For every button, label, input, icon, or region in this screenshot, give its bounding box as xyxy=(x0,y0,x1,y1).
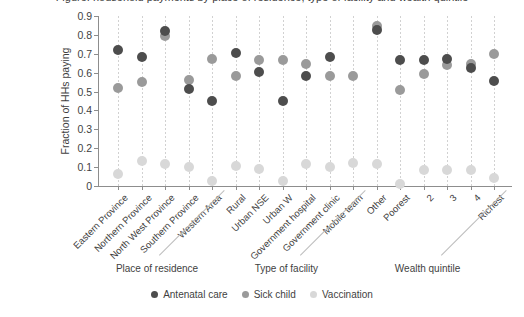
x-tick-mark xyxy=(212,186,213,190)
category-column xyxy=(259,16,260,186)
data-point[interactable] xyxy=(278,55,288,65)
legend-label: Antenatal care xyxy=(163,289,228,300)
x-axis-line xyxy=(98,186,512,187)
category-column xyxy=(330,16,331,186)
data-point[interactable] xyxy=(301,159,311,169)
category-column xyxy=(424,16,425,186)
data-point[interactable] xyxy=(419,55,429,65)
data-point[interactable] xyxy=(137,156,147,166)
data-point[interactable] xyxy=(395,85,405,95)
data-point[interactable] xyxy=(207,54,217,64)
category-column xyxy=(306,16,307,186)
category-column xyxy=(165,16,166,186)
y-tick-label: 0.3 xyxy=(66,123,92,135)
data-point[interactable] xyxy=(113,83,123,93)
chart-screenshot: Figure: household payments by place of r… xyxy=(0,0,524,317)
category-column xyxy=(447,16,448,186)
plot-area: 00.10.20.30.40.50.60.70.80.9 Eastern Pro… xyxy=(98,16,512,186)
data-point[interactable] xyxy=(254,67,264,77)
data-point[interactable] xyxy=(395,179,405,189)
data-point[interactable] xyxy=(489,76,499,86)
x-tick-mark xyxy=(236,186,237,190)
data-point[interactable] xyxy=(113,45,123,55)
data-point[interactable] xyxy=(207,176,217,186)
data-point[interactable] xyxy=(278,96,288,106)
data-point[interactable] xyxy=(489,173,499,183)
x-axis-label: 2 xyxy=(424,192,436,204)
category-column xyxy=(118,16,119,186)
y-tick-label: 0.2 xyxy=(66,142,92,154)
data-point[interactable] xyxy=(466,63,476,73)
x-tick-mark xyxy=(424,186,425,190)
data-point[interactable] xyxy=(466,165,476,175)
category-column xyxy=(400,16,401,186)
data-point[interactable] xyxy=(442,54,452,64)
legend-swatch-icon xyxy=(242,291,249,298)
data-point[interactable] xyxy=(325,52,335,62)
data-point[interactable] xyxy=(113,169,123,179)
x-tick-mark xyxy=(353,186,354,190)
data-point[interactable] xyxy=(254,164,264,174)
x-axis-label: 4 xyxy=(471,192,483,204)
data-point[interactable] xyxy=(231,161,241,171)
legend-item[interactable]: Vaccination xyxy=(310,289,373,300)
y-tick-mark xyxy=(94,73,98,74)
x-tick-mark xyxy=(189,186,190,190)
data-point[interactable] xyxy=(184,84,194,94)
data-point[interactable] xyxy=(372,159,382,169)
category-column xyxy=(494,16,495,186)
group-label: Place of residence xyxy=(116,263,198,274)
data-point[interactable] xyxy=(184,162,194,172)
data-point[interactable] xyxy=(419,69,429,79)
legend-label: Sick child xyxy=(254,289,296,300)
y-tick-mark xyxy=(94,167,98,168)
y-tick-mark xyxy=(94,54,98,55)
data-point[interactable] xyxy=(301,59,311,69)
data-point[interactable] xyxy=(231,71,241,81)
y-tick-label: 0.5 xyxy=(66,86,92,98)
category-column xyxy=(142,16,143,186)
data-point[interactable] xyxy=(231,48,241,58)
x-axis-label: 3 xyxy=(448,192,460,204)
category-column xyxy=(353,16,354,186)
data-point[interactable] xyxy=(325,162,335,172)
data-point[interactable] xyxy=(442,165,452,175)
group-label: Wealth quintile xyxy=(395,263,460,274)
data-point[interactable] xyxy=(278,176,288,186)
data-point[interactable] xyxy=(419,165,429,175)
y-tick-label: 0 xyxy=(66,180,92,192)
data-point[interactable] xyxy=(325,71,335,81)
y-tick-label: 0.1 xyxy=(66,161,92,173)
data-point[interactable] xyxy=(160,26,170,36)
data-point[interactable] xyxy=(207,96,217,106)
y-axis-title-text: Fraction of HHs paying xyxy=(59,48,71,155)
category-column xyxy=(236,16,237,186)
category-column xyxy=(212,16,213,186)
x-tick-mark xyxy=(494,186,495,190)
data-point[interactable] xyxy=(489,49,499,59)
legend-item[interactable]: Antenatal care xyxy=(151,289,228,300)
data-point[interactable] xyxy=(372,25,382,35)
data-point[interactable] xyxy=(348,158,358,168)
data-point[interactable] xyxy=(395,55,405,65)
y-axis-line xyxy=(98,16,99,187)
column-guide-line xyxy=(447,16,448,186)
data-point[interactable] xyxy=(137,52,147,62)
data-point[interactable] xyxy=(160,159,170,169)
x-tick-mark xyxy=(306,186,307,190)
column-guide-line xyxy=(400,16,401,186)
legend-swatch-icon xyxy=(151,291,158,298)
legend-item[interactable]: Sick child xyxy=(242,289,296,300)
data-point[interactable] xyxy=(137,77,147,87)
data-point[interactable] xyxy=(301,71,311,81)
y-tick-label: 0.9 xyxy=(66,10,92,22)
column-guide-line xyxy=(118,16,119,186)
y-tick-label: 0.8 xyxy=(66,29,92,41)
legend-swatch-icon xyxy=(310,291,317,298)
data-point[interactable] xyxy=(254,55,264,65)
column-guide-line xyxy=(259,16,260,186)
group-label: Type of facility xyxy=(255,263,318,274)
y-tick-mark xyxy=(94,110,98,111)
data-point[interactable] xyxy=(348,71,358,81)
category-column xyxy=(189,16,190,186)
